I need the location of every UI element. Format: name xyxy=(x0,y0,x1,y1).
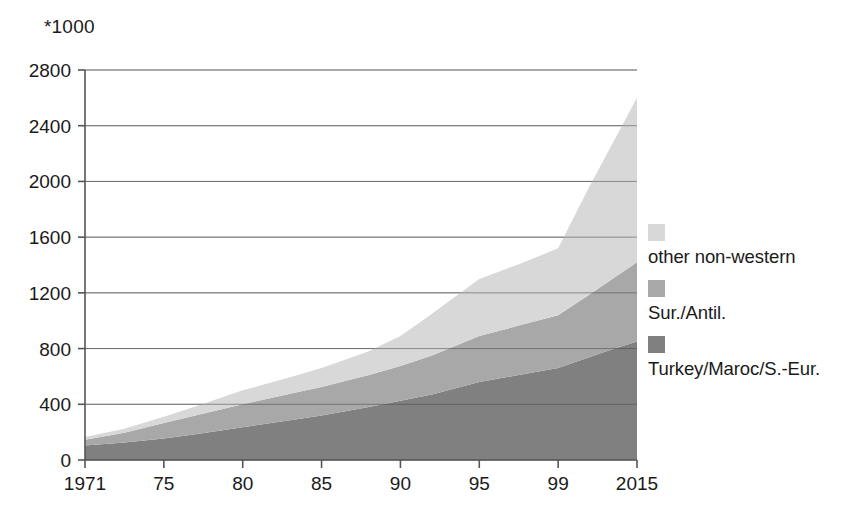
stacked-areas xyxy=(85,98,637,460)
y-axis-ticks: 040080012001600200024002800 xyxy=(29,60,85,471)
y-tick-label: 400 xyxy=(39,394,71,415)
x-tick-label: 95 xyxy=(469,473,490,494)
x-tick-label: 80 xyxy=(232,473,253,494)
y-tick-label: 2000 xyxy=(29,171,71,192)
y-tick-label: 2400 xyxy=(29,116,71,137)
y-tick-label: 0 xyxy=(60,450,71,471)
x-tick-label: 75 xyxy=(153,473,174,494)
legend-swatch xyxy=(648,336,665,353)
x-axis-ticks: 19717580859095992015 xyxy=(64,460,658,494)
y-tick-label: 800 xyxy=(39,339,71,360)
legend-swatch xyxy=(648,224,665,241)
legend-item: Sur./Antil. xyxy=(648,280,862,324)
legend-item: other non-western xyxy=(648,224,862,268)
y-tick-label: 1600 xyxy=(29,227,71,248)
x-tick-label: 99 xyxy=(548,473,569,494)
chart-container: *1000 040080012001600200024002800 197175… xyxy=(0,0,866,525)
legend-swatch xyxy=(648,280,665,297)
legend-item: Turkey/Maroc/S.-Eur. xyxy=(648,336,862,380)
y-tick-label: 2800 xyxy=(29,60,71,81)
legend-label: Turkey/Maroc/S.-Eur. xyxy=(648,358,862,380)
legend-label: other non-western xyxy=(648,246,862,268)
x-tick-label: 85 xyxy=(311,473,332,494)
x-tick-label: 90 xyxy=(390,473,411,494)
chart-legend: other non-westernSur./Antil.Turkey/Maroc… xyxy=(648,224,862,392)
x-tick-label: 1971 xyxy=(64,473,106,494)
y-tick-label: 1200 xyxy=(29,283,71,304)
x-tick-label: 2015 xyxy=(616,473,658,494)
legend-label: Sur./Antil. xyxy=(648,302,862,324)
